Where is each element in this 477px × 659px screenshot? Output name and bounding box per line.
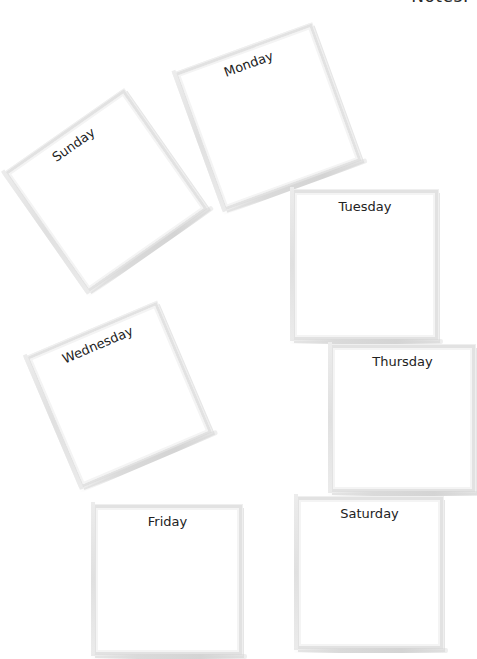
day-box-thursday[interactable]: Thursday: [330, 345, 475, 492]
day-box-monday[interactable]: Monday: [174, 23, 361, 210]
day-box-tuesday[interactable]: Tuesday: [292, 190, 438, 340]
day-label-monday: Monday: [180, 33, 317, 95]
day-box-friday[interactable]: Friday: [93, 505, 242, 655]
day-box-sunday[interactable]: Sunday: [4, 89, 207, 292]
day-label-thursday: Thursday: [333, 354, 472, 369]
day-label-friday: Friday: [96, 514, 239, 529]
day-box-wednesday[interactable]: Wednesday: [26, 302, 212, 488]
day-label-tuesday: Tuesday: [295, 199, 435, 214]
notes-title: Notes:: [411, 0, 469, 6]
day-label-sunday: Sunday: [12, 98, 135, 191]
day-label-wednesday: Wednesday: [32, 311, 163, 378]
day-box-saturday[interactable]: Saturday: [296, 497, 443, 649]
day-label-saturday: Saturday: [299, 506, 440, 521]
